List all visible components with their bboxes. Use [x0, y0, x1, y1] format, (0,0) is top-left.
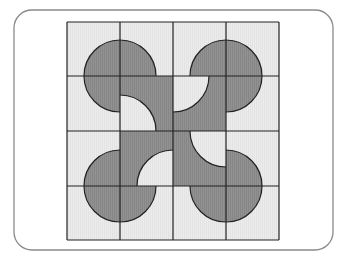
tile-pattern-figure — [0, 0, 346, 257]
diagram-canvas — [0, 0, 346, 257]
